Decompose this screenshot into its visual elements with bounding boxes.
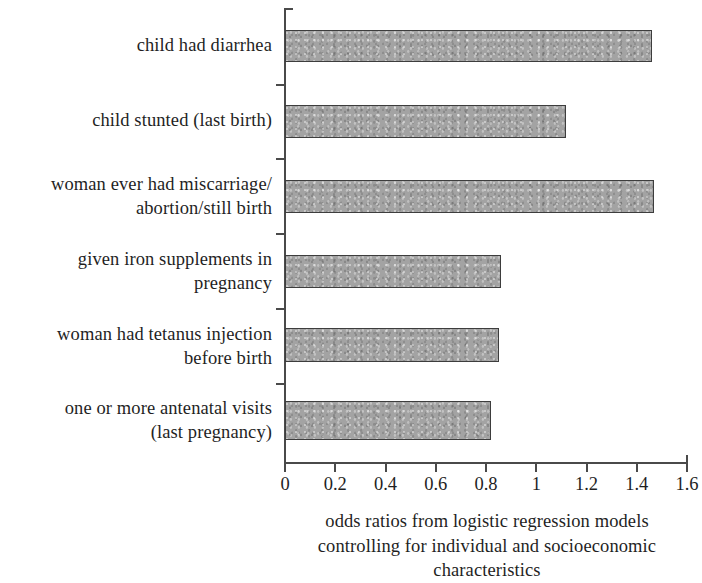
category-label-line: before birth (0, 346, 272, 370)
y-axis-tick-4 (276, 383, 285, 385)
x-axis-tick-mark-0 (284, 463, 286, 472)
category-label-5: one or more antenatal visits(last pregna… (0, 396, 272, 444)
y-axis-line (284, 8, 286, 464)
category-label-line: woman had tetanus injection (0, 322, 272, 346)
bar (285, 401, 491, 440)
x-axis-tick-1.4 (636, 463, 638, 472)
category-label-line: pregnancy (0, 271, 272, 295)
category-label-line: given iron supplements in (0, 247, 272, 271)
category-label-line: child had diarrhea (0, 33, 272, 57)
x-axis-caption-line: odds ratios from logistic regression mod… (272, 509, 702, 534)
category-label-1: child stunted (last birth) (0, 108, 272, 132)
x-axis-caption-line: characteristics (272, 558, 702, 583)
category-label-line: one or more antenatal visits (0, 396, 272, 420)
x-axis-tick-1.6 (686, 455, 688, 463)
x-axis-caption-line: controlling for individual and socioecon… (272, 534, 702, 559)
x-axis-tick-1.2 (586, 463, 588, 472)
x-axis-tick-0.8 (485, 463, 487, 472)
x-axis-tick-0.4 (385, 463, 387, 472)
x-axis-tick-label-1.6: 1.6 (657, 473, 702, 495)
category-label-line: abortion/still birth (0, 196, 272, 220)
bar (285, 180, 654, 213)
x-axis-tick-1 (535, 463, 537, 472)
category-label-line: child stunted (last birth) (0, 108, 272, 132)
y-axis-tick-1 (276, 158, 285, 160)
bar (285, 105, 566, 138)
bar (285, 255, 501, 288)
category-label-0: child had diarrhea (0, 33, 272, 57)
y-axis-tick-2 (276, 233, 285, 235)
category-label-line: woman ever had miscarriage/ (0, 172, 272, 196)
category-label-4: woman had tetanus injectionbefore birth (0, 322, 272, 370)
category-label-line: (last pregnancy) (0, 420, 272, 444)
x-axis-tick-0 (284, 455, 286, 463)
bar (285, 328, 499, 362)
y-axis-tick-0 (276, 84, 285, 86)
category-label-3: given iron supplements inpregnancy (0, 247, 272, 295)
bar-chart: child had diarrheachild stunted (last bi… (0, 0, 702, 583)
y-axis-top-cap (284, 8, 293, 10)
bar (285, 30, 652, 62)
category-label-2: woman ever had miscarriage/abortion/stil… (0, 172, 272, 220)
x-axis-tick-0.6 (435, 463, 437, 472)
y-axis-tick-3 (276, 308, 285, 310)
x-axis-tick-mark-1.6 (686, 463, 688, 472)
x-axis-caption: odds ratios from logistic regression mod… (272, 509, 702, 583)
x-axis-tick-0.2 (334, 463, 336, 472)
